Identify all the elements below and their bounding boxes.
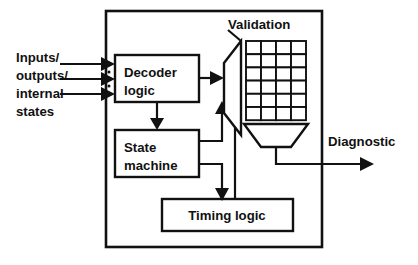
block-diagram-container: Inputs/ outputs/ internal states Decoder… [0, 0, 418, 265]
connector-diagnostic-output [276, 147, 374, 171]
connector-decoder-to-state-machine [150, 102, 164, 130]
connector-decoder-to-validation [199, 71, 224, 85]
input-label-line-2: outputs/ [16, 68, 68, 83]
state-machine-label-line-2: machine [124, 158, 178, 173]
input-label-line-3: internal [16, 86, 64, 101]
decoder-logic-label-line-1: Decoder [124, 65, 177, 80]
diagnostic-label: Diagnostic [328, 134, 395, 149]
validation-funnel [244, 124, 308, 147]
connector-state-machine-to-timing-logic [199, 164, 229, 201]
state-machine-label-line-1: State [124, 140, 156, 155]
timing-logic-label: Timing logic [188, 208, 265, 223]
input-label-line-1: Inputs/ [16, 50, 60, 65]
validation-mux-shape [224, 41, 241, 135]
validation-grid [246, 41, 306, 120]
validation-label: Validation [228, 17, 290, 32]
input-label-line-4: states [16, 104, 54, 119]
input-arrowheads [101, 57, 115, 101]
decoder-logic-label-line-2: logic [124, 83, 155, 98]
block-diagram-svg: Inputs/ outputs/ internal states Decoder… [0, 0, 418, 265]
